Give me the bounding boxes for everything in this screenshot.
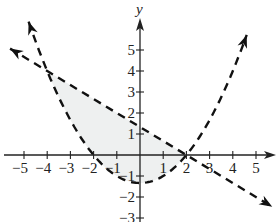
y-tick-label: 3 [128, 84, 136, 100]
graph: −5−4−3−2−11234554321−1−2−3 y [0, 0, 279, 222]
y-tick-label: −1 [119, 168, 135, 184]
axes [4, 18, 276, 222]
x-tick-label: 3 [206, 160, 214, 176]
x-tick-label: 1 [159, 160, 167, 176]
x-tick-label: −5 [12, 160, 28, 176]
x-tick-label: 2 [183, 160, 191, 176]
y-tick-label: 5 [128, 42, 136, 58]
arrowhead-icon [10, 49, 24, 60]
y-tick-label: 2 [128, 105, 136, 121]
arrowhead-icon [28, 22, 37, 36]
x-tick-label: −2 [82, 160, 98, 176]
y-axis-label: y [134, 1, 143, 17]
x-tick-label: −4 [35, 160, 51, 176]
arrowhead-icon [259, 196, 273, 207]
x-tick-label: −3 [58, 160, 74, 176]
x-tick-label: 5 [252, 160, 260, 176]
y-tick-label: 1 [128, 126, 136, 142]
y-tick-label: −3 [119, 210, 135, 222]
x-tick-label: 4 [229, 160, 237, 176]
y-tick-label: 4 [128, 63, 136, 79]
y-tick-label: −2 [119, 189, 135, 205]
